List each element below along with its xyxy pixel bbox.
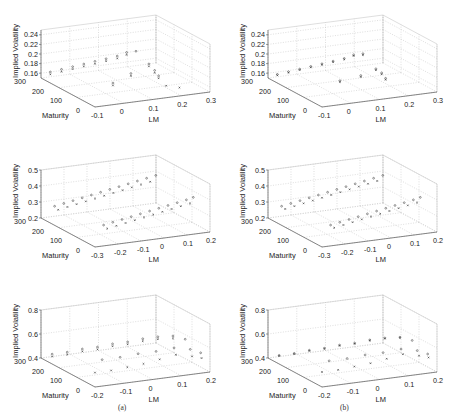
x-tick: 0.2 (404, 100, 414, 109)
data-point-observed (416, 350, 418, 352)
x-tick: 0.3 (433, 96, 443, 105)
data-point-observed (119, 356, 121, 358)
z-tick: 0.4 (255, 354, 265, 363)
x-axis-label: LM (376, 255, 386, 264)
y-tick: 200 (259, 367, 271, 376)
data-point-observed (116, 55, 118, 57)
data-point-observed (54, 205, 56, 207)
data-point-observed (357, 216, 359, 218)
y-tick: 100 (50, 376, 62, 385)
data-point-observed (346, 358, 348, 360)
data-point-observed (97, 346, 99, 348)
x-tick: 0.2 (433, 236, 443, 245)
z-axis-label: Implied Volatility (11, 164, 20, 218)
data-point-observed (100, 191, 102, 193)
data-point-observed (354, 183, 356, 185)
data-point-observed (105, 58, 107, 60)
data-point-observed (158, 207, 160, 209)
y-tick: 200 (32, 87, 44, 96)
data-point-observed (328, 360, 330, 362)
data-point-observed (299, 200, 301, 202)
z-tick: 0.5 (255, 166, 265, 175)
x-tick: 0 (149, 384, 153, 393)
data-point-observed (130, 216, 132, 218)
x-tick: -0.1 (318, 111, 330, 120)
x-tick: 0.2 (206, 376, 216, 385)
chart-canvas: -0.3-0.2-0.100.10.201002003000.20.30.40.… (227, 140, 455, 280)
z-tick: 0.4 (28, 354, 38, 363)
plot-row2-right: -0.3-0.2-0.100.10.201002003000.20.30.40.… (227, 140, 455, 280)
data-point-observed (157, 336, 159, 338)
data-point-observed (118, 186, 120, 188)
x-axis-label: LM (376, 395, 386, 404)
data-point-observed (127, 341, 129, 343)
data-point-observed (81, 197, 83, 199)
data-point-observed (94, 60, 96, 62)
y-tick: 200 (259, 87, 271, 96)
data-point-observed (81, 348, 83, 350)
data-point-observed (72, 66, 74, 68)
z-tick: 0.8 (28, 306, 38, 315)
data-point-observed (394, 205, 396, 207)
data-point-observed (327, 191, 329, 193)
z-axis-label: Implied Volatility (238, 304, 247, 358)
z-axis-label: Implied Volatility (11, 24, 20, 78)
z-tick: 0.4 (28, 182, 38, 191)
data-point-observed (364, 354, 366, 356)
data-point-observed (411, 340, 413, 342)
x-tick: -0.2 (91, 391, 103, 400)
x-tick: 0.1 (149, 104, 159, 113)
data-point-observed (364, 180, 366, 182)
data-point-observed (155, 351, 157, 353)
y-tick: 200 (32, 367, 44, 376)
z-tick: 0.18 (24, 59, 38, 68)
chart-canvas: -0.2-0.100.10.201002003000.40.60.8LMMatu… (227, 280, 455, 420)
data-point-observed (373, 177, 375, 179)
plot-row1-left: -0.100.10.20.301002003000.160.180.20.220… (0, 0, 228, 140)
z-tick: 0.6 (28, 330, 38, 339)
y-axis-label: Maturity (269, 251, 296, 260)
data-point-observed (427, 353, 429, 355)
plot-row3-right: -0.2-0.100.10.201002003000.40.60.8LMMatu… (227, 280, 455, 420)
data-point-observed (137, 353, 139, 355)
y-axis-label: Maturity (42, 391, 69, 400)
z-tick: 0.18 (251, 59, 265, 68)
data-point-observed (172, 335, 174, 337)
data-point-observed (345, 186, 347, 188)
x-tick: -0.1 (347, 387, 359, 396)
data-point-observed (189, 348, 191, 350)
data-point-observed (376, 210, 378, 212)
y-tick: 100 (277, 236, 289, 245)
data-point-observed (385, 207, 387, 209)
z-tick: 0.2 (28, 50, 38, 59)
y-tick: 100 (277, 96, 289, 105)
x-tick: 0.1 (410, 239, 420, 248)
x-tick: -0.1 (120, 387, 132, 396)
x-axis-label: LM (376, 115, 386, 124)
data-point-observed (200, 352, 202, 354)
data-point-observed (149, 210, 151, 212)
y-tick: 0 (303, 106, 307, 115)
x-tick: 0.2 (433, 376, 443, 385)
z-tick: 0.3 (28, 198, 38, 207)
data-point-observed (146, 177, 148, 179)
data-point-observed (403, 202, 405, 204)
data-point-observed (419, 196, 421, 198)
z-tick: 0.6 (255, 330, 265, 339)
data-point-observed (382, 352, 384, 354)
x-tick: 0 (387, 242, 391, 251)
x-tick: 0 (347, 107, 351, 116)
caption-b: (b) (340, 403, 349, 412)
data-point-observed (72, 200, 74, 202)
data-point-observed (140, 213, 142, 215)
z-axis-label: Implied Volatility (11, 304, 20, 358)
data-point-observed (192, 196, 194, 198)
data-point-observed (339, 221, 341, 223)
y-tick: 100 (50, 236, 62, 245)
z-axis-label: Implied Volatility (238, 164, 247, 218)
data-point-observed (83, 63, 85, 65)
y-tick: 100 (277, 376, 289, 385)
y-axis-label: Maturity (42, 111, 69, 120)
x-tick: 0.1 (177, 380, 187, 389)
data-point-observed (308, 197, 310, 199)
